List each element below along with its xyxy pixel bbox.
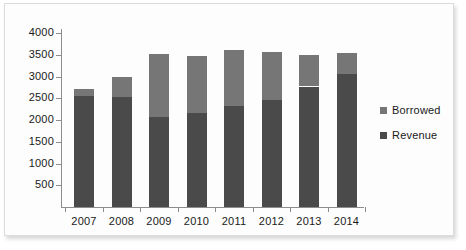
x-axis-tick-mark — [65, 207, 66, 212]
bar-group-2012[interactable] — [262, 4, 282, 207]
x-axis-tick-label-2010: 2010 — [177, 215, 217, 227]
y-axis-tick-label: 1000 — [10, 158, 54, 169]
y-axis-tick-label: 4000 — [10, 27, 54, 38]
x-axis-tick-label-2008: 2008 — [102, 215, 142, 227]
legend-label: Revenue — [392, 129, 437, 141]
x-axis-tick-label-2013: 2013 — [289, 215, 329, 227]
x-axis-tick-label-2012: 2012 — [252, 215, 292, 227]
chart-card: 5001000150020002500300035004000 20072008… — [4, 3, 454, 236]
y-axis-tick-label: 1500 — [10, 136, 54, 147]
y-axis-tick-label: 3500 — [10, 49, 54, 60]
x-axis-tick-label-2011: 2011 — [214, 215, 254, 227]
bar-group-2013[interactable] — [299, 4, 319, 207]
y-axis-tick-mark — [56, 55, 61, 56]
x-axis-tick-label-2007: 2007 — [64, 215, 104, 227]
bar-segment-revenue-2014[interactable] — [337, 74, 357, 207]
legend-swatch-icon — [380, 132, 387, 139]
bar-group-2011[interactable] — [224, 4, 244, 207]
y-axis-tick-mark — [56, 33, 61, 34]
y-axis-tick-label: 2000 — [10, 114, 54, 125]
x-axis-line — [61, 207, 364, 208]
y-axis-tick-mark — [56, 120, 61, 121]
bar-segment-revenue-2010[interactable] — [187, 113, 207, 207]
x-axis-tick-mark — [290, 207, 291, 212]
x-axis-tick-mark — [103, 207, 104, 212]
bar-segment-borrowed-2010[interactable] — [187, 56, 207, 113]
y-axis-tick-mark — [56, 185, 61, 186]
bar-group-2007[interactable] — [74, 4, 94, 207]
legend-swatch-icon — [380, 107, 387, 114]
bar-segment-borrowed-2013[interactable] — [299, 55, 319, 86]
x-axis-tick-mark — [253, 207, 254, 212]
bar-group-2014[interactable] — [337, 4, 357, 207]
bar-group-2009[interactable] — [149, 4, 169, 207]
legend-item-revenue[interactable]: Revenue — [380, 129, 452, 141]
bar-segment-borrowed-2007[interactable] — [74, 89, 94, 96]
x-axis-tick-mark — [178, 207, 179, 212]
bar-segment-revenue-2007[interactable] — [74, 96, 94, 207]
bar-segment-revenue-2013[interactable] — [299, 87, 319, 207]
bar-group-2008[interactable] — [112, 4, 132, 207]
chart-legend: BorrowedRevenue — [380, 104, 452, 154]
bar-segment-borrowed-2008[interactable] — [112, 77, 132, 97]
legend-item-borrowed[interactable]: Borrowed — [380, 104, 452, 116]
x-axis-tick-mark — [365, 207, 366, 212]
x-axis-tick-label-2009: 2009 — [139, 215, 179, 227]
x-axis-tick-mark — [215, 207, 216, 212]
y-axis-tick-label: 500 — [10, 179, 54, 190]
x-axis-tick-mark — [328, 207, 329, 212]
bar-segment-borrowed-2011[interactable] — [224, 50, 244, 107]
bar-segment-borrowed-2009[interactable] — [149, 54, 169, 117]
bar-chart-plot-area: 5001000150020002500300035004000 20072008… — [5, 4, 455, 237]
y-axis-tick-mark — [56, 98, 61, 99]
bar-segment-borrowed-2014[interactable] — [337, 53, 357, 74]
bar-segment-revenue-2009[interactable] — [149, 117, 169, 207]
bar-segment-revenue-2008[interactable] — [112, 97, 132, 207]
bar-segment-revenue-2012[interactable] — [262, 100, 282, 207]
x-axis-tick-label-2014: 2014 — [327, 215, 367, 227]
y-axis-tick-mark — [56, 142, 61, 143]
bar-segment-revenue-2011[interactable] — [224, 106, 244, 207]
bar-group-2010[interactable] — [187, 4, 207, 207]
legend-label: Borrowed — [392, 104, 441, 116]
x-axis-tick-mark — [140, 207, 141, 212]
y-axis-tick-mark — [56, 164, 61, 165]
y-axis-tick-label: 3000 — [10, 71, 54, 82]
y-axis-tick-label: 2500 — [10, 92, 54, 103]
y-axis-tick-mark — [56, 77, 61, 78]
y-axis-line — [61, 29, 62, 208]
bar-segment-borrowed-2012[interactable] — [262, 52, 282, 100]
